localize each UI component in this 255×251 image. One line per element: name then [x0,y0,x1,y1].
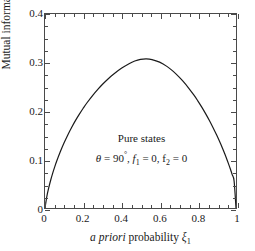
x-axis-label: a priori probability ξ1 [44,231,237,246]
x-tick-label: 0 [41,212,47,224]
y-axis-tick-right [231,161,236,162]
x-tick-label: 0.8 [192,212,206,224]
x-axis-tick [209,205,210,208]
x-axis-tick-top [170,14,171,17]
xi-subscript: 1 [187,237,191,246]
y-tick-label: 0.2 [29,105,43,117]
y-axis-tick-right [233,137,236,138]
x-axis-tick-top [199,14,200,19]
x-axis-tick-top [219,14,220,17]
y-axis-tick-right [233,198,236,199]
x-axis-tick-top [122,14,123,19]
x-tick-label: 0.2 [76,212,90,224]
x-axis-tick-top [151,14,152,17]
y-axis-tick-right [233,186,236,187]
x-axis-tick [55,205,56,208]
x-axis-tick [93,205,94,208]
y-axis-tick-right [233,88,236,89]
x-axis-tick-top [142,14,143,17]
y-axis-tick [45,161,50,162]
x-axis-tick [132,205,133,208]
x-axis-tick-top [84,14,85,19]
y-axis-tick [45,39,48,40]
x-axis-tick [74,205,75,208]
x-axis-tick-top [161,14,162,19]
x-axis-tick-top [74,14,75,17]
y-axis-tick-right [233,51,236,52]
annotation-pure-states: Pure states [118,132,165,144]
x-axis-label-italic: a priori [90,231,125,243]
theta-value: = 90 [101,152,124,164]
x-axis-tick [238,203,239,208]
x-axis-tick-top [180,14,181,17]
y-axis-tick-right [233,100,236,101]
y-axis-tick [45,198,48,199]
x-axis-tick [199,203,200,208]
y-axis-tick-right [233,149,236,150]
x-tick-label: 0.6 [153,212,167,224]
x-tick-label: 0.4 [114,212,128,224]
x-axis-tick [170,205,171,208]
x-axis-tick-top [238,14,239,19]
x-axis-tick-top [103,14,104,17]
y-axis-tick-right [231,210,236,211]
y-axis-tick-right [233,26,236,27]
y-axis-tick-right [233,173,236,174]
y-axis-tick [45,51,48,52]
y-axis-tick [45,186,48,187]
y-axis-label: Mutual information [bit] [0,0,12,111]
x-axis-tick-top [55,14,56,17]
x-tick-label: 1 [234,212,240,224]
x-axis-tick [122,203,123,208]
y-tick-label: 0.4 [29,7,43,19]
x-axis-label-rest: probability [128,231,178,243]
x-axis-tick-top [228,14,229,17]
x-axis-tick [228,205,229,208]
y-axis-tick [45,173,48,174]
y-axis-tick [45,124,48,125]
x-axis-tick-top [93,14,94,17]
y-axis-tick [45,88,48,89]
plot-area: Pure states θ = 90°, f1 = 0, f2 = 0 [44,13,237,209]
x-axis-tick-top [190,14,191,17]
x-axis-tick [180,205,181,208]
x-axis-tick [219,205,220,208]
y-axis-tick-right [233,39,236,40]
y-axis-tick [45,112,50,113]
y-tick-label: 0.3 [29,56,43,68]
y-axis-tick [45,100,48,101]
y-axis-tick [45,14,50,15]
y-axis-tick-right [231,112,236,113]
x-axis-tick-top [132,14,133,17]
x-axis-tick [64,205,65,208]
x-axis-tick [151,205,152,208]
mutual-information-chart: Mutual information [bit] 0 0.1 0.2 0.3 0… [0,0,255,251]
y-axis-tick [45,137,48,138]
x-axis-tick-top [209,14,210,17]
y-axis-tick-right [233,124,236,125]
x-axis-tick-top [64,14,65,17]
x-axis-tick [142,205,143,208]
y-axis-tick [45,149,48,150]
x-axis-tick-top [113,14,114,17]
y-axis-tick [45,63,50,64]
data-curve [45,14,236,208]
x-axis-tick [190,205,191,208]
f1-label: , f [127,152,136,164]
y-axis-tick [45,210,50,211]
y-axis-tick-right [231,63,236,64]
x-axis-tick [45,203,46,208]
f1-value: = 0, f [140,152,166,164]
y-axis-tick [45,75,48,76]
x-axis-tick [103,205,104,208]
y-axis-tick-right [233,75,236,76]
x-axis-tick [161,203,162,208]
y-axis-tick [45,26,48,27]
x-axis-tick [84,203,85,208]
y-axis-tick-right [231,14,236,15]
x-axis-tick [113,205,114,208]
f2-value: = 0 [170,152,187,164]
y-tick-label: 0.1 [29,154,43,166]
annotation-parameters: θ = 90°, f1 = 0, f2 = 0 [96,150,187,167]
